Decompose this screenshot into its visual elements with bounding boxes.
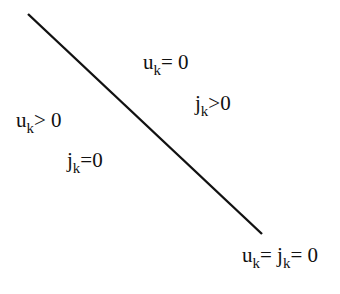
label-jk-eq-zero: jk=0 [67, 150, 103, 171]
label-base: u [242, 243, 253, 267]
label-relation: =0 [80, 148, 102, 172]
label-relation: > 0 [34, 108, 62, 132]
label-relation: = j [260, 243, 283, 267]
label-relation: = 0 [161, 50, 189, 74]
label-uk-gt-zero: uk> 0 [16, 110, 62, 131]
label-subscript: k [154, 62, 162, 78]
label-uk-eq-zero: uk= 0 [143, 52, 189, 73]
label-corner-both-zero: uk= jk= 0 [242, 245, 318, 266]
label-relation: >0 [208, 91, 230, 115]
label-subscript: k [253, 255, 261, 271]
label-base: u [143, 50, 154, 74]
label-subscript: k [27, 120, 35, 136]
label-relation: = 0 [290, 243, 318, 267]
label-base: u [16, 108, 27, 132]
label-jk-gt-zero: jk>0 [195, 93, 231, 114]
